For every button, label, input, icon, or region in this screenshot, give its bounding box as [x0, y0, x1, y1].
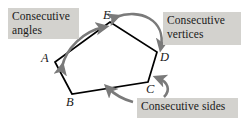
consecutive-sides-arrow-left — [108, 88, 133, 102]
vertex-label-b: B — [66, 96, 74, 109]
geometry-figure: Consecutive angles Consecutive vertices … — [0, 0, 244, 123]
vertex-label-d: D — [160, 51, 169, 64]
vertex-label-e: E — [103, 9, 111, 22]
callout-consecutive-sides: Consecutive sides — [137, 98, 238, 118]
consecutive-sides-arrow-right — [158, 78, 168, 97]
callout-consecutive-angles: Consecutive angles — [8, 8, 79, 39]
vertex-label-a: A — [41, 52, 49, 65]
callout-consecutive-vertices: Consecutive vertices — [163, 12, 241, 45]
vertex-label-c: C — [146, 83, 154, 96]
